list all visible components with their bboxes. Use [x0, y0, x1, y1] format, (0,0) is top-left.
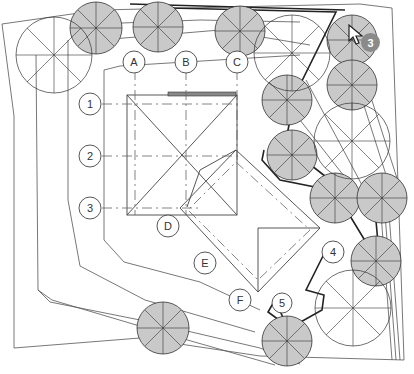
site-plan-drawing: A B C D E F 1 2 3 4 5 — [0, 0, 414, 374]
svg-text:5: 5 — [279, 297, 285, 309]
svg-text:1: 1 — [87, 98, 93, 110]
tree — [357, 173, 407, 223]
tree — [262, 316, 312, 366]
callout-4: 4 — [322, 241, 344, 263]
tree — [254, 15, 330, 91]
grid-bubble-E: E — [194, 252, 216, 274]
svg-text:F: F — [237, 294, 244, 306]
tree — [70, 2, 122, 54]
tree — [262, 75, 312, 125]
cursor-step-badge: 3 — [361, 33, 380, 52]
grid-bubble-B: B — [175, 51, 197, 73]
tree — [351, 236, 401, 286]
grid-bubble-C: C — [226, 51, 248, 73]
svg-text:4: 4 — [330, 246, 336, 258]
tree — [133, 2, 183, 52]
grid-bubble-1: 1 — [79, 93, 101, 115]
tree — [314, 103, 390, 179]
grid-bubble-D: D — [157, 215, 179, 237]
grid-bubble-3: 3 — [79, 197, 101, 219]
tree — [267, 130, 317, 180]
svg-text:B: B — [182, 56, 189, 68]
svg-text:A: A — [130, 56, 138, 68]
svg-text:3: 3 — [87, 202, 93, 214]
grid-bubble-2: 2 — [79, 145, 101, 167]
tree — [215, 6, 265, 56]
tree — [327, 60, 377, 110]
svg-text:D: D — [164, 220, 172, 232]
tree — [16, 17, 92, 93]
callout-5: 5 — [272, 293, 292, 313]
grid-bubble-A: A — [123, 51, 145, 73]
grid-bubble-F: F — [229, 289, 251, 311]
tree — [315, 270, 391, 346]
tree — [310, 173, 360, 223]
building-main — [127, 92, 237, 215]
svg-text:2: 2 — [87, 150, 93, 162]
tree — [137, 302, 189, 354]
svg-text:C: C — [233, 56, 241, 68]
svg-text:E: E — [201, 257, 208, 269]
